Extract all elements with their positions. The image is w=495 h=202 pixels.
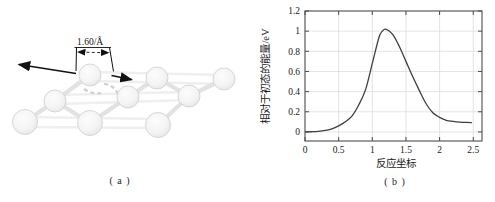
x-axis-title: 反应坐标: [376, 157, 417, 169]
y-tick-label: 0.4: [288, 87, 300, 97]
y-tick-label: 1.2: [288, 6, 300, 16]
atom: [117, 86, 139, 108]
x-tick-label: 0.5: [333, 145, 345, 155]
x-tick-label: 1: [370, 145, 375, 155]
atom: [79, 64, 101, 86]
ghost-bond-dashes: [84, 89, 101, 94]
panel-a-label: ( a ): [55, 175, 185, 186]
atom: [146, 113, 171, 138]
y-tick-label: 0.2: [288, 107, 300, 117]
x-tick-label: 2.5: [467, 145, 479, 155]
panel-energy-chart: 00.511.522.500.20.40.60.811.2反应坐标相对于初态的能…: [260, 0, 495, 202]
energy-curve: [305, 29, 472, 132]
extension-line-right: [110, 48, 114, 72]
displacement-arrow-left: [19, 65, 76, 74]
extension-line-left: [76, 48, 77, 72]
atom: [78, 111, 103, 136]
panel-b-label: ( b ): [330, 176, 460, 187]
x-tick-label: 1.5: [400, 145, 412, 155]
atom: [213, 68, 235, 90]
atom: [146, 67, 168, 89]
y-tick-label: 0: [295, 127, 300, 137]
atom: [13, 110, 38, 135]
atom: [178, 85, 200, 107]
panel-structure: 1.60/Å: [0, 0, 260, 202]
molecule-diagram: 1.60/Å: [0, 0, 260, 202]
y-tick-label: 0.6: [288, 67, 300, 77]
x-tick-label: 0: [303, 145, 308, 155]
y-tick-label: 1: [295, 26, 300, 36]
y-axis-title: 相对于初态的能量/eV: [260, 28, 271, 124]
displacement-arrow-right: [112, 76, 132, 80]
atom: [44, 90, 66, 112]
figure: 1.60/Å 00.511.522.500.20.40.60.811.2反应坐标…: [0, 0, 495, 202]
y-tick-label: 0.8: [288, 47, 300, 57]
distance-label: 1.60/Å: [77, 36, 103, 47]
x-tick-label: 2: [437, 145, 442, 155]
energy-chart: 00.511.522.500.20.40.60.811.2反应坐标相对于初态的能…: [260, 0, 495, 202]
